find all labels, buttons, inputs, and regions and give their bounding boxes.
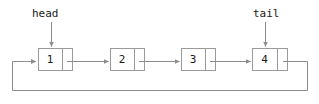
- node-value-3: 3: [181, 54, 205, 66]
- tail-pointer-label: tail: [253, 8, 280, 20]
- node-value-1: 1: [38, 54, 62, 66]
- head-pointer-label: head: [32, 8, 59, 20]
- node-value-4: 4: [252, 54, 277, 66]
- node-value-2: 2: [110, 54, 134, 66]
- linked-list-diagram: head tail 1 2 3 4: [0, 0, 319, 104]
